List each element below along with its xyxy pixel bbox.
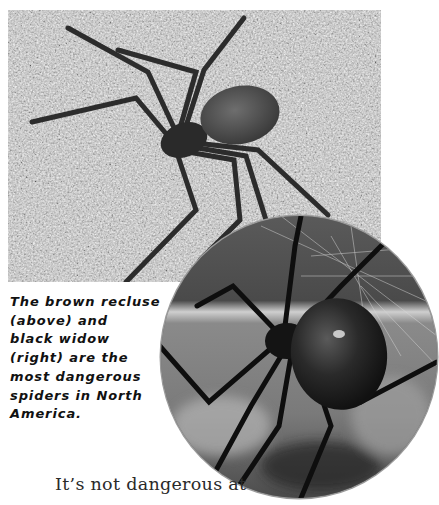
caption-line: black widow [10, 330, 170, 349]
caption-line: (above) and [10, 312, 170, 331]
caption-line: (right) are the [10, 349, 170, 368]
caption-line: spiders in North [10, 387, 170, 406]
caption-line: America. [10, 405, 170, 424]
black-widow-image [161, 216, 437, 498]
caption-line: The brown recluse [10, 293, 170, 312]
body-paragraph: It’s not dangerous at [55, 474, 246, 494]
caption-line: most dangerous [10, 368, 170, 387]
photo-caption: The brown recluse (above) and black wido… [10, 293, 170, 424]
black-widow-photo [161, 216, 437, 498]
